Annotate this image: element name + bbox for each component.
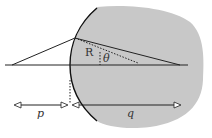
label-radius: R — [85, 46, 94, 59]
incident-ray — [12, 38, 75, 65]
refracting-medium — [70, 6, 204, 128]
label-angle: θ — [103, 52, 110, 65]
label-p: p — [37, 107, 44, 120]
label-q: q — [127, 107, 134, 120]
refraction-diagram: R θ p q — [0, 0, 212, 138]
